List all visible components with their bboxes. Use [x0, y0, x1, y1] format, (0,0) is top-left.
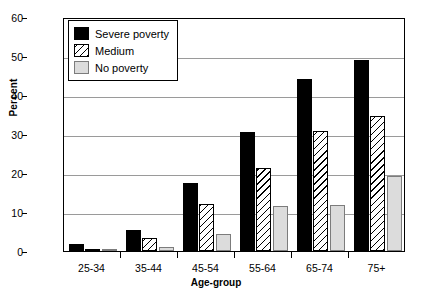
bar-chart-figure: Percent 0102030405060 25-3435-4445-5455-… — [0, 0, 432, 295]
y-tick-mark — [22, 18, 27, 19]
bar-55-64-severe-poverty — [240, 132, 255, 251]
y-tick-mark — [22, 96, 27, 97]
bar-65-74-no-poverty — [330, 205, 345, 251]
bar-35-44-no-poverty — [159, 247, 174, 251]
bar-45-54-no-poverty — [216, 234, 231, 251]
bar-55-64-medium — [256, 168, 271, 251]
legend-item: Severe poverty — [74, 25, 169, 42]
y-tick-label: 60 — [0, 13, 23, 24]
bar-35-44-medium — [142, 238, 157, 251]
legend-item: No poverty — [74, 59, 169, 76]
y-tick-mark — [22, 252, 27, 253]
bar-35-44-severe-poverty — [126, 230, 141, 251]
legend-item: Medium — [74, 42, 169, 59]
legend-label: Severe poverty — [95, 28, 169, 40]
y-tick-mark — [22, 135, 27, 136]
bar-75+-medium — [370, 116, 385, 251]
y-tick-mark — [22, 57, 27, 58]
x-tick-mark — [234, 252, 235, 258]
bar-25-34-severe-poverty — [69, 244, 84, 251]
bar-65-74-medium — [313, 131, 328, 251]
bar-75+-no-poverty — [387, 176, 402, 251]
x-tick-mark — [120, 252, 121, 258]
y-tick-mark — [22, 213, 27, 214]
x-tick-mark — [348, 252, 349, 258]
legend-swatch-medium-icon — [74, 44, 89, 57]
bar-75+-severe-poverty — [354, 60, 369, 251]
y-tick-label: 10 — [0, 208, 23, 219]
chart-legend: Severe povertyMediumNo poverty — [68, 20, 178, 81]
y-tick-label: 0 — [0, 247, 23, 258]
x-tick-mark — [177, 252, 178, 258]
legend-label: Medium — [95, 45, 134, 57]
x-tick-mark — [291, 252, 292, 258]
x-axis-title: Age-group — [0, 277, 432, 288]
bar-55-64-no-poverty — [273, 206, 288, 251]
legend-label: No poverty — [95, 62, 148, 74]
y-tick-label: 50 — [0, 52, 23, 63]
y-tick-label: 20 — [0, 169, 23, 180]
y-tick-label: 40 — [0, 91, 23, 102]
bar-25-34-no-poverty — [102, 249, 117, 251]
x-tick-label: 75+ — [342, 262, 412, 274]
bar-45-54-medium — [199, 204, 214, 251]
y-tick-mark — [22, 174, 27, 175]
bar-45-54-severe-poverty — [183, 183, 198, 251]
legend-swatch-nopov-icon — [74, 61, 89, 74]
y-tick-label: 30 — [0, 130, 23, 141]
bar-25-34-medium — [85, 249, 100, 251]
bar-65-74-severe-poverty — [297, 79, 312, 251]
legend-swatch-severe-icon — [74, 27, 89, 40]
